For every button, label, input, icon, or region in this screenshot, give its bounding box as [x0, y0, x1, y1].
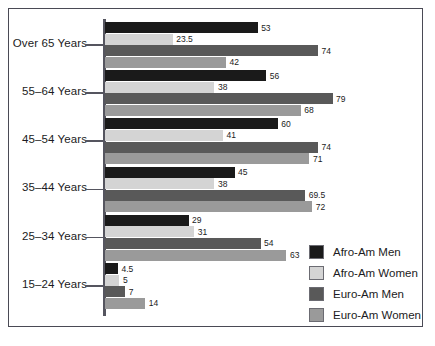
category-tick — [85, 285, 103, 287]
bar-value-label: 53 — [261, 22, 270, 32]
bar — [105, 238, 261, 249]
plot-area: Over 65 Years5323.5744255–64 Years563879… — [9, 9, 424, 328]
bar — [105, 275, 119, 286]
bar — [105, 190, 305, 201]
category-tick — [85, 189, 103, 191]
category-label: Over 65 Years — [13, 37, 87, 49]
bar — [105, 286, 125, 297]
bar-value-label: 4.5 — [121, 263, 133, 273]
bar — [105, 130, 223, 141]
bar-group: Over 65 Years5323.57442 — [9, 22, 424, 68]
bar-group: 45–54 Years60417471 — [9, 118, 424, 164]
bar-value-label: 38 — [218, 82, 227, 92]
category-label: 15–24 Years — [22, 278, 87, 290]
bar-value-label: 29 — [192, 215, 201, 225]
bar — [105, 57, 226, 68]
bar-row: 79 — [105, 93, 424, 104]
bar-row: 38 — [105, 82, 424, 93]
bar-value-label: 69.5 — [309, 190, 326, 200]
chart-frame: Over 65 Years5323.5744255–64 Years563879… — [8, 8, 423, 327]
bar-row: 31 — [105, 226, 424, 237]
bar-row: 71 — [105, 153, 424, 164]
bar-group: 55–64 Years56387968 — [9, 70, 424, 116]
legend-item: Afro-Am Men — [309, 241, 429, 262]
bar-value-label: 7 — [129, 286, 134, 296]
bar-value-label: 79 — [336, 94, 345, 104]
bar — [105, 226, 194, 237]
bar-value-label: 14 — [149, 298, 158, 308]
bar-row: 74 — [105, 142, 424, 153]
bar-value-label: 38 — [218, 178, 227, 188]
bar-row: 60 — [105, 118, 424, 129]
bar-value-label: 45 — [238, 167, 247, 177]
bar-row: 38 — [105, 178, 424, 189]
bar-value-label: 72 — [316, 202, 325, 212]
bar — [105, 142, 318, 153]
bar — [105, 215, 189, 226]
legend-swatch — [309, 245, 324, 259]
bar-value-label: 60 — [281, 119, 290, 129]
legend-item: Euro-Am Women — [309, 304, 429, 325]
bar-value-label: 74 — [322, 45, 331, 55]
bar-value-label: 31 — [198, 227, 207, 237]
bar — [105, 178, 214, 189]
bar — [105, 105, 301, 116]
bar-row: 68 — [105, 105, 424, 116]
bar-value-label: 74 — [322, 142, 331, 152]
bar — [105, 22, 258, 33]
category-tick — [85, 44, 103, 46]
category-label: 25–34 Years — [22, 230, 87, 242]
category-tick — [85, 140, 103, 142]
bar — [105, 118, 278, 129]
bar — [105, 70, 266, 81]
bar-row: 74 — [105, 45, 424, 56]
bar — [105, 167, 235, 178]
bar-value-label: 41 — [227, 130, 236, 140]
category-label: 55–64 Years — [22, 85, 87, 97]
bar-value-label: 71 — [313, 153, 322, 163]
legend-label: Euro-Am Women — [333, 309, 421, 321]
bar-value-label: 23.5 — [176, 34, 193, 44]
bar-value-label: 56 — [270, 70, 279, 80]
bar — [105, 263, 118, 274]
legend-label: Euro-Am Men — [333, 288, 404, 300]
bar-row: 72 — [105, 201, 424, 212]
bar-row: 41 — [105, 130, 424, 141]
category-tick — [85, 237, 103, 239]
legend-swatch — [309, 266, 324, 280]
legend-swatch — [309, 287, 324, 301]
bar-row: 29 — [105, 215, 424, 226]
category-label: 35–44 Years — [22, 181, 87, 193]
bar — [105, 45, 318, 56]
bar — [105, 34, 173, 45]
bar-row: 45 — [105, 167, 424, 178]
bar-value-label: 63 — [290, 250, 299, 260]
bar-value-label: 5 — [123, 275, 128, 285]
category-tick — [85, 92, 103, 94]
bar-row: 42 — [105, 57, 424, 68]
bar-value-label: 68 — [304, 105, 313, 115]
chart-legend: Afro-Am MenAfro-Am WomenEuro-Am MenEuro-… — [309, 241, 429, 325]
legend-item: Afro-Am Women — [309, 262, 429, 283]
bar-row: 56 — [105, 70, 424, 81]
legend-label: Afro-Am Women — [333, 267, 418, 279]
legend-swatch — [309, 308, 324, 322]
bar-value-label: 54 — [264, 238, 273, 248]
category-label: 45–54 Years — [22, 133, 87, 145]
bar-row: 53 — [105, 22, 424, 33]
legend-label: Afro-Am Men — [333, 246, 401, 258]
bar — [105, 201, 312, 212]
bar-value-label: 42 — [229, 57, 238, 67]
chart-screenshot: Over 65 Years5323.5744255–64 Years563879… — [0, 0, 435, 346]
bar-group: 35–44 Years453869.572 — [9, 167, 424, 213]
legend-item: Euro-Am Men — [309, 283, 429, 304]
bar — [105, 153, 309, 164]
bar — [105, 298, 145, 309]
bar — [105, 82, 214, 93]
bar — [105, 93, 333, 104]
bar-row: 23.5 — [105, 34, 424, 45]
bar — [105, 250, 286, 261]
bar-row: 69.5 — [105, 190, 424, 201]
